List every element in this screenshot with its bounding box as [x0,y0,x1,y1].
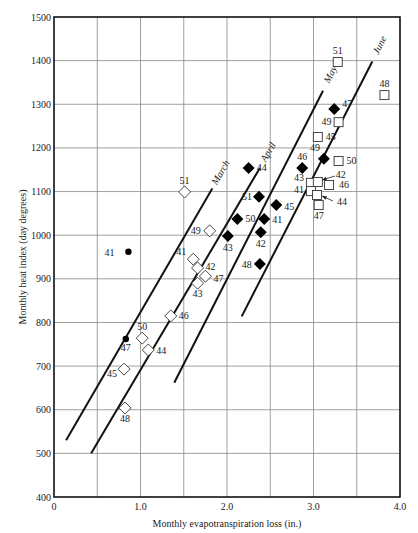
data-point-label: 51 [180,175,190,186]
data-point-label: 45 [284,201,294,212]
y-tick-label: 1400 [31,55,51,66]
scatter-chart: 4005006007008009001000110012001300140015… [0,0,418,533]
data-point-label: 47 [314,210,324,221]
y-tick-label: 900 [36,273,51,284]
data-point-label: 45 [326,131,336,142]
series-march: 4147 [104,247,131,353]
data-point-label: 47 [213,273,223,284]
series-june: 5148494550434246414447 [294,45,390,221]
y-tick-label: 1100 [31,186,51,197]
x-tick-label: 4.0 [394,501,407,512]
trend-line-april [91,168,260,453]
x-tick-label: 3.0 [307,501,320,512]
data-point-marker [334,157,343,166]
data-point-marker [125,249,131,255]
y-tick-label: 500 [36,448,51,459]
y-tick-label: 1000 [31,230,51,241]
data-point-label: 50 [245,213,255,224]
y-tick-label: 1500 [31,12,51,23]
series-april: 5149414247434650444548 [107,175,223,424]
x-axis-label: Monthly evapotranspiration loss (in.) [153,518,302,530]
x-tick-label: 0 [52,501,57,512]
y-tick-label: 600 [36,404,51,415]
data-point-label: 43 [223,242,233,253]
x-axis-ticks: 01.02.03.04.0 [52,501,407,512]
data-point-marker [325,181,334,190]
data-point-marker [243,162,255,174]
data-point-label: 46 [179,310,189,321]
data-point-marker [334,118,343,127]
data-point-marker [255,226,267,238]
y-tick-label: 1200 [31,142,51,153]
data-point-label: 50 [347,155,357,166]
trend-line-may [174,91,323,383]
y-tick-label: 400 [36,492,51,503]
y-axis-ticks: 4005006007008009001000110012001300140015… [31,12,51,503]
data-point-marker [313,133,322,142]
data-point-label: 45 [107,368,117,379]
data-point-marker [314,201,323,210]
y-axis-label: Monthly heat index (day degrees) [17,190,29,325]
data-point-label: 41 [104,247,114,258]
y-tick-label: 700 [36,361,51,372]
data-point-marker [118,363,130,375]
data-point-label: 44 [337,196,347,207]
trend-line-label: June [370,34,389,56]
data-point-label: 48 [242,259,252,270]
x-tick-label: 1.0 [134,501,147,512]
data-point-marker [328,103,340,115]
data-point-label: 42 [256,238,266,249]
data-point-label: 44 [257,162,267,173]
data-point-marker [312,191,321,200]
data-point-label: 49 [322,116,332,127]
data-point-label: 41 [176,246,186,257]
data-point-label: 49 [191,225,201,236]
data-point-marker [254,258,266,270]
x-tick-label: 2.0 [221,501,234,512]
data-point-marker [222,230,234,242]
data-point-marker [380,91,389,100]
y-tick-label: 800 [36,317,51,328]
trend-line-label: March [208,158,231,187]
data-point-marker [333,57,342,66]
data-point-label: 49 [310,142,320,153]
data-point-marker [142,344,154,356]
data-point-label: 46 [339,179,349,190]
data-point-marker [253,191,265,203]
data-point-label: 46 [297,151,307,162]
data-point-label: 41 [272,214,282,225]
data-point-marker [136,332,148,344]
data-point-label: 44 [156,345,166,356]
data-point-label: 41 [294,184,304,195]
data-point-label: 47 [342,98,352,109]
data-point-label: 42 [206,261,216,272]
data-point-marker [313,177,322,186]
data-point-label: 51 [333,45,343,56]
data-point-label: 47 [121,342,131,353]
data-point-label: 43 [294,172,304,183]
y-tick-label: 1300 [31,99,51,110]
data-points: 4147514941424743465044454847494644514550… [104,45,389,424]
data-point-label: 50 [137,321,147,332]
data-point-label: 48 [120,413,130,424]
data-point-label: 43 [193,288,203,299]
data-point-marker [179,186,191,198]
data-point-label: 51 [242,191,252,202]
trend-line-label: April [258,140,279,164]
data-point-label: 48 [379,78,389,89]
data-point-marker [270,199,282,211]
